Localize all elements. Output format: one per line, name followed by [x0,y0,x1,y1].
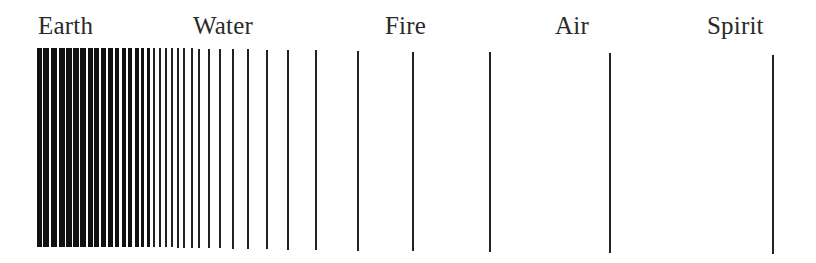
vertical-bar [80,48,86,247]
vertical-bar [247,49,249,249]
vertical-bar [101,48,106,247]
vertical-bar [153,48,155,247]
vertical-bar [208,49,210,248]
vertical-bar [266,50,268,249]
vertical-bar [128,48,132,247]
vertical-bar [219,49,221,248]
vertical-bar [43,48,49,247]
vertical-bar [315,50,317,250]
vertical-bar [609,53,611,253]
vertical-bar [183,48,185,248]
vertical-bar [135,48,139,247]
vertical-bar [141,48,144,247]
vertical-bar [177,48,179,248]
vertical-bar [115,48,119,247]
vertical-bar [159,48,161,247]
vertical-bar [489,52,491,252]
vertical-bar [232,49,234,249]
vertical-bar [94,48,99,247]
vertical-bar [165,48,167,247]
vertical-bar [59,48,65,247]
vertical-bar [198,49,200,248]
vertical-bar [412,52,414,251]
vertical-bar [108,48,113,247]
vertical-bar [122,48,126,247]
vertical-bar [191,48,193,248]
vertical-bar [37,48,42,247]
vertical-bar [51,48,57,247]
vertical-bar [357,51,359,251]
vertical-bar [147,48,150,247]
vertical-bar [66,48,72,247]
vertical-bar [772,55,774,254]
density-bars [0,0,816,263]
vertical-bar [88,48,93,247]
vertical-bar [171,48,173,247]
vertical-bar [287,50,289,250]
vertical-bar [73,48,79,247]
